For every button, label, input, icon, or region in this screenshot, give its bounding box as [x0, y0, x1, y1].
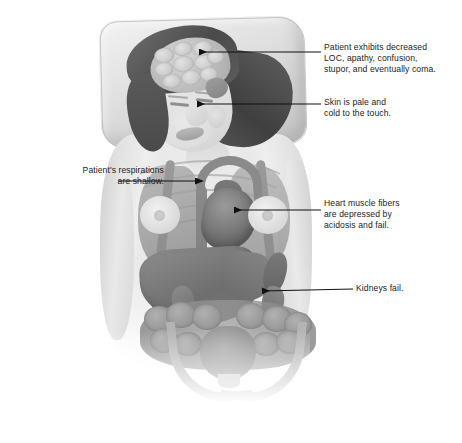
- heart-annotation-label: Heart muscle fibers are depressed by aci…: [324, 198, 456, 231]
- kidneys-annotation-label: Kidneys fail.: [356, 283, 456, 294]
- nipple-right: [262, 210, 273, 221]
- nipple-left: [154, 210, 165, 221]
- loc-annotation-label: Patient exhibits decreased LOC, apathy, …: [324, 42, 460, 75]
- skin-annotation-label: Skin is pale and cold to the touch.: [324, 97, 456, 119]
- respirations-annotation-label: Patient's respirations are shallow.: [14, 165, 164, 187]
- lower-body-fade: [104, 330, 310, 425]
- illustration-canvas: Patient exhibits decreased LOC, apathy, …: [0, 0, 462, 443]
